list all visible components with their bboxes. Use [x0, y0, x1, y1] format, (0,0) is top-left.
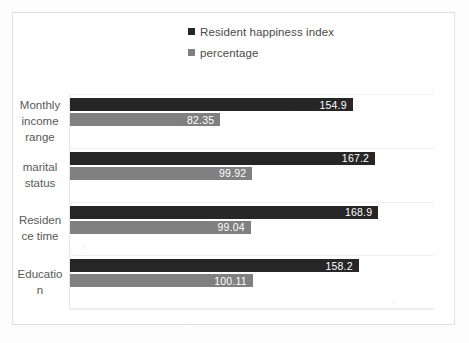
- bar[interactable]: 99.04: [70, 221, 251, 234]
- grid-line: [69, 94, 434, 95]
- grid-line: [69, 202, 434, 203]
- grid-line: [69, 148, 434, 149]
- plot-area: 154.982.35167.299.92168.999.04158.2100.1…: [69, 94, 434, 309]
- chart-legend: Resident happiness index percentage: [13, 21, 456, 63]
- legend-label: Resident happiness index: [200, 26, 334, 38]
- bar[interactable]: 158.2: [70, 259, 359, 272]
- chart-screenshot: Resident happiness index percentage 154.…: [0, 0, 469, 343]
- bar[interactable]: 99.92: [70, 167, 252, 180]
- category-label-line: Educatio: [13, 266, 67, 282]
- bar[interactable]: 167.2: [70, 152, 375, 165]
- category-label: Education: [13, 266, 67, 298]
- bar[interactable]: 154.9: [70, 98, 353, 111]
- bar-value-label: 168.9: [345, 206, 378, 218]
- grid-line: [69, 255, 434, 256]
- category-label: Residence time: [13, 212, 67, 244]
- legend-item-percentage[interactable]: percentage: [13, 42, 456, 63]
- legend-swatch-icon: [188, 49, 195, 56]
- category-label-line: marital: [13, 159, 67, 175]
- bar-value-label: 82.35: [187, 114, 220, 126]
- category-label-line: status: [13, 175, 67, 191]
- bar[interactable]: 82.35: [70, 113, 220, 126]
- legend-swatch-icon: [188, 28, 195, 35]
- grid-line: [69, 309, 434, 310]
- category-label-line: n: [13, 282, 67, 298]
- legend-label: percentage: [200, 47, 259, 59]
- chart-frame: Resident happiness index percentage 154.…: [12, 12, 455, 325]
- legend-item-resident-happiness-index[interactable]: Resident happiness index: [13, 21, 456, 42]
- bar[interactable]: 100.11: [70, 274, 253, 287]
- bar[interactable]: 168.9: [70, 206, 378, 219]
- bar-value-label: 99.92: [219, 167, 252, 179]
- bar-value-label: 99.04: [217, 221, 250, 233]
- category-label-line: Monthly: [13, 97, 67, 113]
- bar-value-label: 100.11: [214, 275, 253, 287]
- category-label-line: Residen: [13, 212, 67, 228]
- category-label: Monthlyincomerange: [13, 97, 67, 145]
- bar-value-label: 167.2: [342, 152, 375, 164]
- category-label: maritalstatus: [13, 159, 67, 191]
- category-label-line: range: [13, 129, 67, 145]
- category-label-line: ce time: [13, 228, 67, 244]
- category-label-line: income: [13, 113, 67, 129]
- bar-value-label: 154.9: [319, 99, 352, 111]
- bar-value-label: 158.2: [325, 260, 358, 272]
